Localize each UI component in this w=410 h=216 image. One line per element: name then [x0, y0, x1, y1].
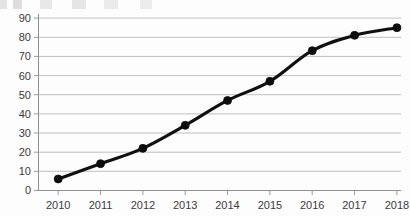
y-tick-label: 30	[19, 127, 31, 139]
y-tick-label: 90	[19, 12, 31, 24]
data-point-marker	[97, 160, 105, 168]
x-axis-ticks	[58, 191, 397, 196]
data-point-marker	[351, 31, 359, 39]
line-chart-figure: 90 80 70 60 50 40 30 20 10 0 2010 2011 2…	[0, 0, 410, 216]
x-tick-label: 2011	[89, 199, 113, 211]
gridlines	[38, 18, 401, 171]
y-axis-ticks	[34, 18, 39, 190]
data-point-marker	[181, 121, 189, 129]
series-markers	[54, 24, 401, 183]
data-point-marker	[139, 144, 147, 152]
x-tick-label: 2010	[46, 199, 70, 211]
x-tick-label: 2016	[300, 199, 324, 211]
y-tick-label: 50	[19, 89, 31, 101]
y-axis-labels: 90 80 70 60 50 40 30 20 10 0	[19, 12, 31, 196]
x-tick-label: 2012	[131, 199, 155, 211]
y-tick-label: 0	[25, 184, 31, 196]
y-tick-label: 70	[19, 50, 31, 62]
data-point-marker	[308, 47, 316, 55]
data-point-marker	[393, 24, 401, 32]
y-tick-label: 10	[19, 165, 31, 177]
x-tick-label: 2014	[215, 199, 239, 211]
chart-plot-area: 90 80 70 60 50 40 30 20 10 0 2010 2011 2…	[0, 0, 410, 216]
x-tick-label: 2018	[385, 199, 409, 211]
x-axis-labels: 2010 2011 2012 2013 2014 2015 2016 2017 …	[46, 199, 409, 211]
y-tick-label: 80	[19, 31, 31, 43]
x-tick-label: 2013	[173, 199, 197, 211]
y-tick-label: 20	[19, 146, 31, 158]
y-tick-label: 60	[19, 70, 31, 82]
x-tick-label: 2015	[258, 199, 282, 211]
data-point-marker	[224, 96, 232, 104]
y-tick-label: 40	[19, 108, 31, 120]
x-tick-label: 2017	[342, 199, 366, 211]
data-point-marker	[54, 175, 62, 183]
data-point-marker	[266, 77, 274, 85]
